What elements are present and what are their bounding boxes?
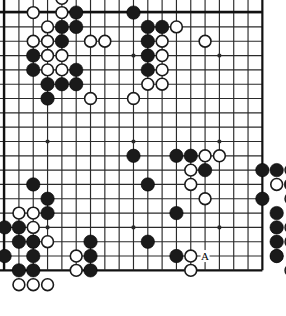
black-stone[interactable] <box>55 78 68 91</box>
board-label-a: A <box>201 250 209 262</box>
black-stone[interactable] <box>141 235 154 248</box>
star-point <box>131 225 135 229</box>
white-stone[interactable] <box>185 179 197 191</box>
black-stone[interactable] <box>55 35 68 48</box>
black-stone[interactable] <box>184 149 197 162</box>
white-stone[interactable] <box>27 7 39 19</box>
black-stone[interactable] <box>141 20 154 33</box>
star-point <box>131 139 135 143</box>
black-stone[interactable] <box>55 20 68 33</box>
white-stone[interactable] <box>156 50 168 62</box>
black-stone[interactable] <box>12 221 25 234</box>
white-stone[interactable] <box>85 35 97 47</box>
white-stone[interactable] <box>156 78 168 90</box>
white-stone[interactable] <box>56 50 68 62</box>
black-stone[interactable] <box>12 235 25 248</box>
white-stone[interactable] <box>27 207 39 219</box>
white-stone[interactable] <box>171 21 183 33</box>
black-stone[interactable] <box>141 63 154 76</box>
white-stone[interactable] <box>42 21 54 33</box>
white-stone[interactable] <box>27 279 39 291</box>
black-stone[interactable] <box>27 178 40 191</box>
black-stone[interactable] <box>141 49 154 62</box>
black-stone[interactable] <box>84 235 97 248</box>
white-stone[interactable] <box>42 279 54 291</box>
black-stone[interactable] <box>270 163 283 176</box>
black-stone[interactable] <box>170 206 183 219</box>
black-stone[interactable] <box>12 264 25 277</box>
black-stone[interactable] <box>27 235 40 248</box>
black-stone[interactable] <box>256 163 269 176</box>
white-stone[interactable] <box>13 207 25 219</box>
white-stone[interactable] <box>185 264 197 276</box>
white-stone[interactable] <box>27 222 39 234</box>
black-stone[interactable] <box>41 78 54 91</box>
white-stone[interactable] <box>85 93 97 105</box>
black-stone[interactable] <box>41 92 54 105</box>
white-stone[interactable] <box>42 35 54 47</box>
white-stone[interactable] <box>42 50 54 62</box>
star-point <box>217 139 221 143</box>
white-stone[interactable] <box>271 179 283 191</box>
black-stone[interactable] <box>270 206 283 219</box>
black-stone[interactable] <box>70 20 83 33</box>
black-stone[interactable] <box>0 249 11 262</box>
white-stone[interactable] <box>13 279 25 291</box>
black-stone[interactable] <box>27 264 40 277</box>
black-stone[interactable] <box>84 249 97 262</box>
white-stone[interactable] <box>27 35 39 47</box>
black-stone[interactable] <box>70 6 83 19</box>
white-stone[interactable] <box>56 7 68 19</box>
star-point <box>217 225 221 229</box>
black-stone[interactable] <box>270 249 283 262</box>
black-stone[interactable] <box>141 178 154 191</box>
white-stone[interactable] <box>42 64 54 76</box>
black-stone[interactable] <box>270 235 283 248</box>
white-stone[interactable] <box>185 164 197 176</box>
white-stone[interactable] <box>185 250 197 262</box>
black-stone[interactable] <box>270 221 283 234</box>
white-stone[interactable] <box>128 93 140 105</box>
black-stone[interactable] <box>27 49 40 62</box>
black-stone[interactable] <box>198 163 211 176</box>
black-stone[interactable] <box>127 149 140 162</box>
black-stone[interactable] <box>155 20 168 33</box>
white-stone[interactable] <box>199 35 211 47</box>
black-stone[interactable] <box>41 192 54 205</box>
star-point <box>45 139 49 143</box>
white-stone[interactable] <box>156 35 168 47</box>
black-stone[interactable] <box>170 149 183 162</box>
black-stone[interactable] <box>41 206 54 219</box>
white-stone[interactable] <box>199 150 211 162</box>
board-background <box>0 0 286 316</box>
white-stone[interactable] <box>142 78 154 90</box>
goban-grid[interactable]: A <box>0 0 286 316</box>
black-stone[interactable] <box>127 6 140 19</box>
black-stone[interactable] <box>0 221 11 234</box>
white-stone[interactable] <box>156 64 168 76</box>
white-stone[interactable] <box>70 264 82 276</box>
black-stone[interactable] <box>27 249 40 262</box>
go-board-diagram: A <box>0 0 286 316</box>
white-stone[interactable] <box>199 193 211 205</box>
star-point <box>45 225 49 229</box>
black-stone[interactable] <box>27 63 40 76</box>
black-stone[interactable] <box>141 35 154 48</box>
white-stone[interactable] <box>70 250 82 262</box>
white-stone[interactable] <box>99 35 111 47</box>
star-point <box>131 53 135 57</box>
black-stone[interactable] <box>70 63 83 76</box>
white-stone[interactable] <box>214 150 226 162</box>
white-stone[interactable] <box>56 64 68 76</box>
black-stone[interactable] <box>84 264 97 277</box>
black-stone[interactable] <box>170 249 183 262</box>
black-stone[interactable] <box>70 78 83 91</box>
star-point <box>217 53 221 57</box>
black-stone[interactable] <box>256 192 269 205</box>
white-stone[interactable] <box>42 236 54 248</box>
white-stone[interactable] <box>56 0 68 4</box>
